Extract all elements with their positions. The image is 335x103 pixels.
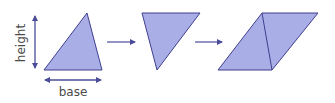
- diagram-canvas: height base: [0, 0, 335, 103]
- base-label: base: [59, 85, 88, 99]
- original-triangle: [44, 13, 102, 70]
- height-label: height: [14, 24, 28, 63]
- parallelogram: [218, 13, 318, 70]
- rotated-triangle: [142, 13, 200, 70]
- diagram-svg: height base: [0, 0, 335, 103]
